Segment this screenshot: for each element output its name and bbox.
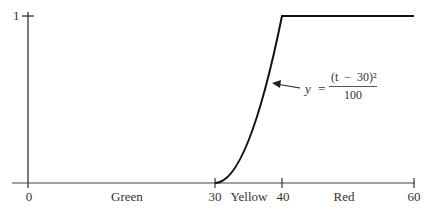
x-tick-label-40: 40 bbox=[277, 189, 290, 205]
arrow-head-icon bbox=[272, 80, 281, 88]
y-tick-label-1: 1 bbox=[13, 8, 20, 24]
chart-canvas bbox=[0, 0, 428, 220]
x-tick-label-30: 30 bbox=[209, 189, 222, 205]
x-tick-label-60: 60 bbox=[408, 189, 421, 205]
region-label-red: Red bbox=[334, 189, 355, 205]
x-tick-label-0: 0 bbox=[26, 189, 33, 205]
equation-fraction: (t − 30)² 100 bbox=[329, 70, 377, 103]
region-label-yellow: Yellow bbox=[231, 189, 268, 205]
curve-line bbox=[215, 16, 414, 183]
equation-numerator: (t − 30)² bbox=[329, 70, 377, 87]
equation-lhs: y = bbox=[305, 81, 326, 97]
region-label-green: Green bbox=[111, 189, 143, 205]
equation-denominator: 100 bbox=[329, 87, 377, 103]
